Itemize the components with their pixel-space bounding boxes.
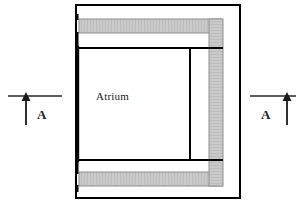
floor-plan-drawing xyxy=(0,0,304,212)
section-marker-left-label: A xyxy=(37,108,46,121)
bottom-glazing-band xyxy=(79,172,222,186)
atrium-label: Atrium xyxy=(96,91,129,102)
floor-plan-canvas: Atrium A A xyxy=(0,0,304,212)
top-glazing-band xyxy=(79,19,222,33)
section-marker-right-label: A xyxy=(261,108,270,121)
